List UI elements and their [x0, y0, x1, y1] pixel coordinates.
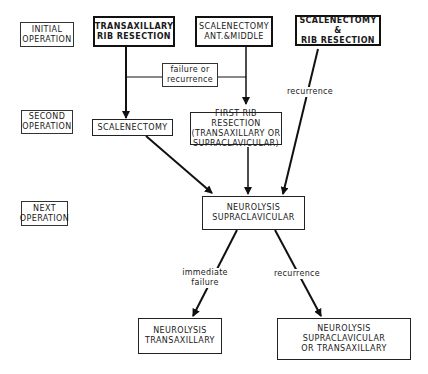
stage-label-second: SECOND OPERATION — [21, 110, 73, 134]
node-first-rib-resection: FIRST RIB RESECTION (TRANSAXILLARY OR SU… — [190, 112, 282, 145]
stage-label-next: NEXT OPERATION — [21, 201, 68, 226]
node-scalenectomy-rib-resection: SCALENECTOMY & RIB RESECTION — [295, 15, 381, 46]
edge-label-recurrence-bottom: recurrence — [272, 269, 322, 279]
node-scalenectomy: SCALENECTOMY — [92, 119, 173, 136]
node-neurolysis-supra-or-trans: NEUROLYSIS SUPRACLAVICULAR OR TRANSAXILL… — [277, 318, 411, 360]
stage-label-initial: INITIAL OPERATION — [20, 22, 74, 47]
node-scalenectomy-ant-middle: SCALENECTOMY ANT.&MIDDLE — [195, 16, 273, 47]
node-neurolysis-supraclavicular: NEUROLYSIS SUPRACLAVICULAR — [202, 196, 305, 230]
edge-label-recurrence-top: recurrence — [285, 87, 335, 97]
edge-label-failure-or-recurrence: failure or recurrence — [162, 63, 218, 87]
edge-label-immediate-failure: immediate failure — [180, 268, 230, 288]
node-neurolysis-transaxillary: NEUROLYSIS TRANSAXILLARY — [138, 318, 222, 354]
node-transaxillary-rib-resection: TRANSAXILLARY RIB RESECTION — [93, 16, 175, 47]
